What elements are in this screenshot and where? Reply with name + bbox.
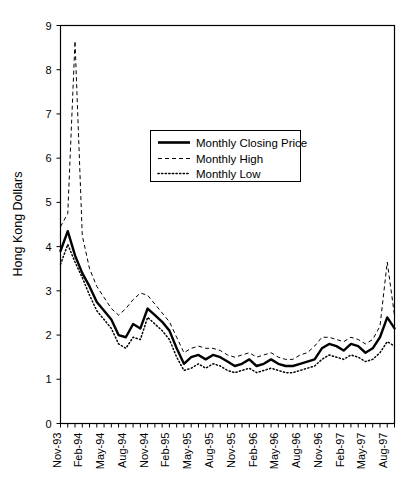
- x-tick-label: May-96: [268, 433, 280, 470]
- x-tick-label: May-95: [181, 433, 193, 470]
- y-tick-label: 8: [45, 64, 51, 76]
- y-tick-label: 6: [45, 152, 51, 164]
- series-layer: [61, 41, 395, 373]
- x-tick-label: Nov-93: [51, 433, 63, 468]
- x-tick-label: Feb-95: [159, 433, 171, 468]
- x-tick-label: Feb-97: [334, 433, 346, 468]
- x-tick-label: Aug-96: [290, 433, 302, 468]
- x-tick-label: Feb-94: [72, 433, 84, 468]
- y-tick-label: 1: [45, 373, 51, 385]
- y-axis-title: Hong Kong Dollars: [11, 172, 25, 277]
- y-tick-label: 2: [45, 329, 51, 341]
- x-tick-label: Nov-95: [225, 433, 237, 468]
- series-line-monthly-low: [61, 244, 395, 372]
- y-tick-label: 4: [45, 241, 51, 253]
- y-tick-label: 9: [45, 20, 51, 32]
- x-tick-label: Aug-94: [116, 433, 128, 468]
- x-tick-label: May-97: [355, 433, 367, 470]
- y-tick-label: 0: [45, 418, 51, 430]
- y-tick-label: 3: [45, 285, 51, 297]
- y-tick-label: 7: [45, 108, 51, 120]
- x-tick-label: May-94: [94, 433, 106, 470]
- x-tick-label: Aug-95: [203, 433, 215, 468]
- y-axis: 0123456789: [45, 20, 60, 430]
- chart-legend: Monthly Closing Price Monthly High Month…: [151, 131, 308, 182]
- chart-figure: 0123456789 Nov-93Feb-94May-94Aug-94Nov-9…: [0, 0, 417, 487]
- x-tick-label: Aug-97: [377, 433, 389, 468]
- x-tick-label: Nov-96: [312, 433, 324, 468]
- x-axis: Nov-93Feb-94May-94Aug-94Nov-94Feb-95May-…: [51, 424, 395, 470]
- series-line-monthly-high: [61, 41, 395, 359]
- series-line-monthly-closing-price: [61, 231, 395, 366]
- x-tick-label: Feb-96: [247, 433, 259, 468]
- legend-label-monthly-low: Monthly Low: [196, 168, 261, 180]
- x-tick-label: Nov-94: [138, 433, 150, 468]
- legend-label-monthly-high: Monthly High: [196, 153, 263, 165]
- y-tick-label: 5: [45, 196, 51, 208]
- legend-label-closing-price: Monthly Closing Price: [196, 137, 307, 149]
- chart-svg: 0123456789 Nov-93Feb-94May-94Aug-94Nov-9…: [0, 0, 417, 487]
- plot-frame: [61, 26, 395, 424]
